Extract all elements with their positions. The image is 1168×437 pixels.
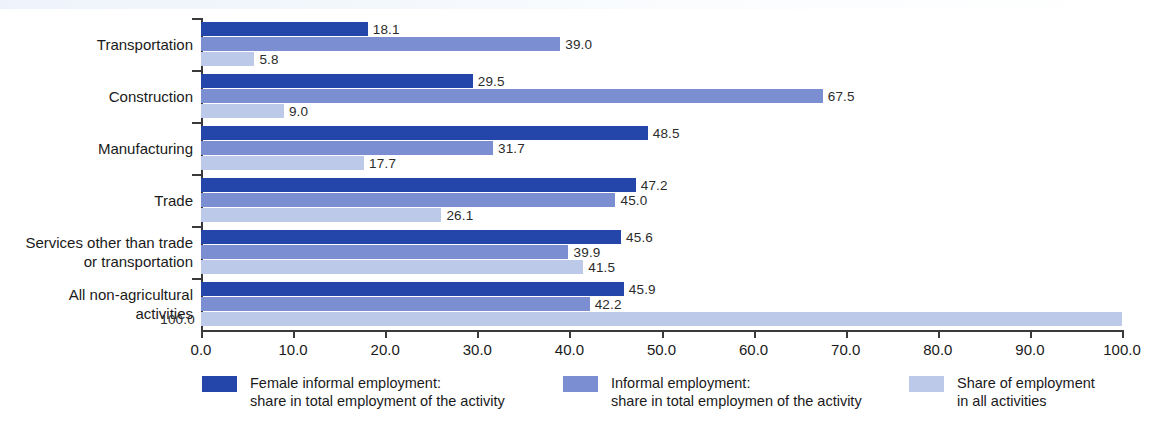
x-axis-tick bbox=[477, 330, 479, 338]
y-axis-tick bbox=[192, 174, 203, 176]
legend-label: Informal employment: share in total empl… bbox=[611, 374, 862, 410]
y-axis-tick bbox=[192, 122, 203, 124]
bar-value-label: 48.5 bbox=[653, 126, 680, 141]
bar[interactable] bbox=[201, 260, 583, 274]
bar-value-label: 31.7 bbox=[498, 141, 525, 156]
category-label: Manufacturing bbox=[0, 139, 193, 158]
category-label: Services other than trade or transportat… bbox=[0, 233, 193, 271]
x-axis-tick bbox=[201, 330, 203, 338]
legend-swatch bbox=[909, 376, 944, 392]
bar-value-label: 29.5 bbox=[478, 74, 505, 89]
bar[interactable] bbox=[201, 22, 368, 36]
category-label: Trade bbox=[0, 191, 193, 210]
y-axis-tick bbox=[192, 226, 203, 228]
x-axis-tick-label: 100.0 bbox=[1103, 341, 1141, 358]
chart-legend: Female informal employment: share in tot… bbox=[0, 374, 1168, 434]
bar[interactable] bbox=[201, 52, 254, 66]
bar-value-label: 39.9 bbox=[573, 245, 600, 260]
bar-group: 45.942.2100.0 bbox=[201, 278, 1122, 330]
legend-label: Female informal employment: share in tot… bbox=[250, 374, 505, 410]
bar-value-label: 9.0 bbox=[289, 104, 308, 119]
x-axis-tick-label: 60.0 bbox=[739, 341, 768, 358]
bar-value-label: 67.5 bbox=[828, 89, 855, 104]
bar[interactable] bbox=[201, 104, 284, 118]
bar-value-label: 100.0 bbox=[160, 312, 195, 327]
x-axis-tick bbox=[662, 330, 664, 338]
legend-swatch bbox=[563, 376, 598, 392]
category-label: Construction bbox=[0, 87, 193, 106]
x-axis-tick-label: 70.0 bbox=[831, 341, 860, 358]
bar[interactable] bbox=[201, 282, 624, 296]
x-axis-tick bbox=[1122, 330, 1124, 338]
bar[interactable] bbox=[201, 74, 473, 88]
horizontal-bar-chart: TransportationConstructionManufacturingT… bbox=[0, 0, 1168, 437]
bar[interactable] bbox=[201, 178, 636, 192]
bar-value-label: 39.0 bbox=[565, 37, 592, 52]
bar-group: 47.245.026.1 bbox=[201, 174, 1122, 226]
bar-group: 45.639.941.5 bbox=[201, 226, 1122, 278]
bar-value-label: 45.6 bbox=[626, 230, 653, 245]
y-axis-tick bbox=[192, 18, 203, 20]
bar[interactable] bbox=[201, 208, 441, 222]
bar-group: 18.139.05.8 bbox=[201, 18, 1122, 70]
x-axis-tick bbox=[385, 330, 387, 338]
x-axis-tick bbox=[846, 330, 848, 338]
x-axis-tick bbox=[293, 330, 295, 338]
x-axis-tick-label: 90.0 bbox=[1015, 341, 1044, 358]
category-label: Transportation bbox=[0, 35, 193, 54]
x-axis-tick bbox=[938, 330, 940, 338]
y-axis-tick bbox=[192, 278, 203, 280]
bar-value-label: 5.8 bbox=[259, 52, 278, 67]
bar-value-label: 17.7 bbox=[369, 156, 396, 171]
bar-value-label: 42.2 bbox=[595, 297, 622, 312]
x-axis-tick-label: 10.0 bbox=[278, 341, 307, 358]
bar[interactable] bbox=[201, 245, 568, 259]
x-axis-tick-label: 40.0 bbox=[555, 341, 584, 358]
x-axis-tick-label: 30.0 bbox=[463, 341, 492, 358]
bar[interactable] bbox=[201, 193, 615, 207]
bar[interactable] bbox=[201, 37, 560, 51]
bar[interactable] bbox=[201, 89, 823, 103]
bar-group: 29.567.59.0 bbox=[201, 70, 1122, 122]
x-axis-tick bbox=[1030, 330, 1032, 338]
legend-item[interactable]: Female informal employment: share in tot… bbox=[202, 374, 505, 410]
x-axis-tick bbox=[569, 330, 571, 338]
bar-group: 48.531.717.7 bbox=[201, 122, 1122, 174]
bar[interactable] bbox=[201, 230, 621, 244]
bar[interactable] bbox=[201, 297, 590, 311]
legend-item[interactable]: Share of employment in all activities bbox=[909, 374, 1095, 410]
x-axis-tick-label: 20.0 bbox=[371, 341, 400, 358]
bar-value-label: 45.9 bbox=[629, 282, 656, 297]
bar-value-label: 26.1 bbox=[446, 208, 473, 223]
bar-value-label: 18.1 bbox=[373, 22, 400, 37]
bar[interactable] bbox=[201, 312, 1122, 326]
x-axis-tick-label: 50.0 bbox=[647, 341, 676, 358]
plot-area: 18.139.05.829.567.59.048.531.717.747.245… bbox=[201, 18, 1122, 330]
legend-label: Share of employment in all activities bbox=[957, 374, 1095, 410]
x-axis-tick bbox=[754, 330, 756, 338]
bar[interactable] bbox=[201, 126, 648, 140]
x-axis-tick-label: 0.0 bbox=[191, 341, 212, 358]
legend-item[interactable]: Informal employment: share in total empl… bbox=[563, 374, 862, 410]
y-axis-tick bbox=[192, 70, 203, 72]
x-axis-tick-label: 80.0 bbox=[923, 341, 952, 358]
category-axis-labels: TransportationConstructionManufacturingT… bbox=[0, 18, 193, 330]
bar-value-label: 45.0 bbox=[620, 193, 647, 208]
legend-swatch bbox=[202, 376, 237, 392]
bar[interactable] bbox=[201, 156, 364, 170]
bar-value-label: 41.5 bbox=[588, 260, 615, 275]
bar-value-label: 47.2 bbox=[641, 178, 668, 193]
bar[interactable] bbox=[201, 141, 493, 155]
